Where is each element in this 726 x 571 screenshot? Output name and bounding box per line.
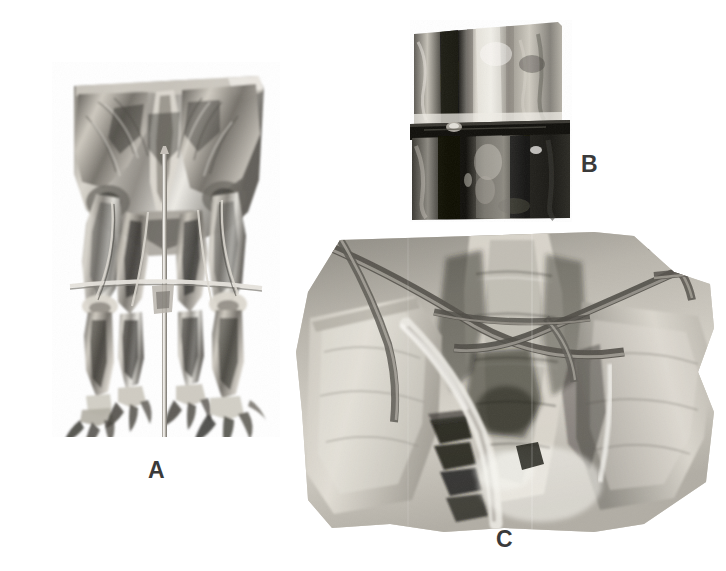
figure-plate: A [0, 0, 726, 571]
panel-b-image [410, 20, 572, 222]
panel-c-image [294, 232, 714, 532]
panel-a-image [52, 62, 280, 437]
panel-label-a: A [148, 459, 165, 482]
panel-a-photograph [52, 62, 280, 437]
panel-label-c: C [496, 528, 513, 551]
panel-c-photograph [294, 232, 714, 532]
panel-label-b: B [581, 153, 598, 176]
panel-b-photograph [410, 20, 572, 222]
